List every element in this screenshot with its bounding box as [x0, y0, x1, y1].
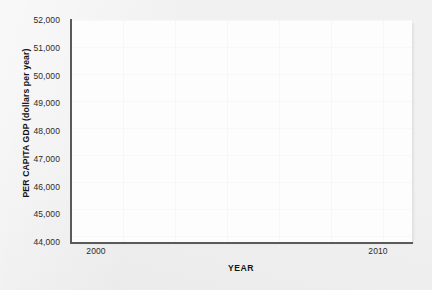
- y-tick-label: 44,000: [0, 238, 60, 247]
- y-axis-line: [70, 19, 72, 244]
- x-tick-label: 2000: [66, 246, 126, 256]
- x-axis-line: [70, 242, 413, 244]
- y-axis-title-unit: (dollars per year): [21, 48, 31, 120]
- plot-gridlines: [71, 20, 412, 242]
- plot-area: [71, 20, 412, 242]
- x-axis-title: YEAR: [141, 263, 341, 273]
- y-axis-title: PER CAPITA GDP (dollars per year): [21, 13, 31, 233]
- y-axis-title-text: PER CAPITA GDP: [21, 123, 31, 197]
- chart-figure: 52,000 51,000 50,000 49,000 48,000 47,00…: [0, 0, 432, 290]
- x-tick-label: 2010: [348, 246, 408, 256]
